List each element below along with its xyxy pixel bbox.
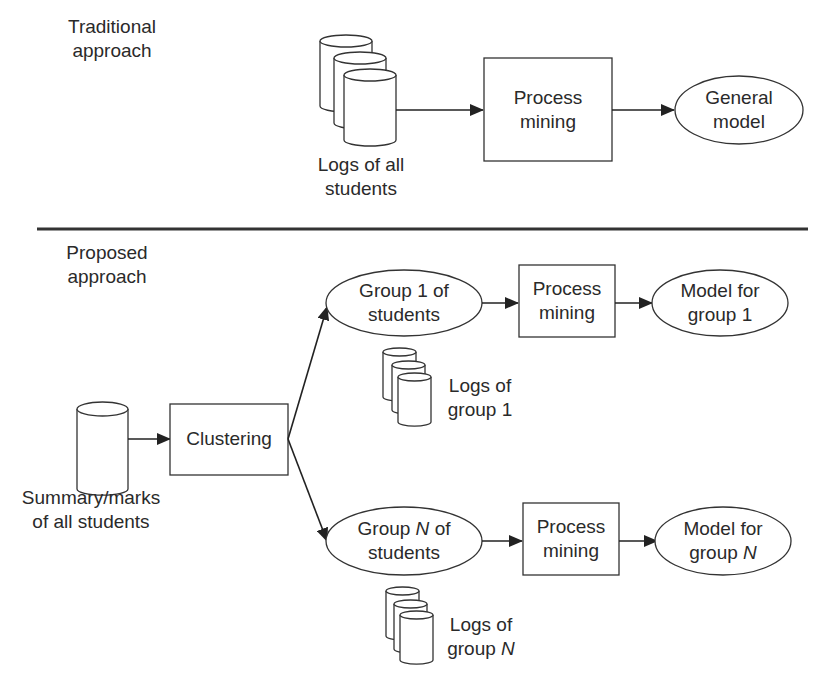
proposed-approach-label: Proposed approach	[66, 241, 147, 289]
arrow-clustering-to-group-n	[288, 439, 327, 541]
clustering-label: Clustering	[186, 427, 272, 451]
logs-group-n-label: Logs of group N	[447, 613, 515, 661]
group-n-label: Group N of students	[358, 517, 451, 565]
process-mining-label-traditional: Process mining	[514, 86, 583, 134]
logs-group-1-icon	[383, 348, 431, 426]
model-group-n-label: Model for group N	[683, 517, 762, 565]
logs-all-students-icon	[320, 35, 396, 146]
general-model-label: General model	[705, 86, 773, 134]
logs-all-students-label: Logs of all students	[318, 153, 405, 201]
process-mining-label-group-n: Process mining	[537, 515, 606, 563]
traditional-approach-label: Traditional approach	[68, 15, 156, 63]
summary-marks-label: Summary/marks of all students	[22, 486, 160, 534]
group-1-label: Group 1 of students	[359, 279, 449, 327]
process-mining-approaches-diagram: Traditional approach Logs of all student…	[0, 0, 835, 687]
arrow-clustering-to-group-1	[288, 307, 327, 439]
model-group-1-label: Model for group 1	[680, 279, 759, 327]
summary-marks-icon	[77, 402, 128, 495]
logs-group-n-icon	[386, 587, 433, 664]
logs-group-1-label: Logs of group 1	[448, 374, 512, 422]
process-mining-label-group-1: Process mining	[533, 277, 602, 325]
